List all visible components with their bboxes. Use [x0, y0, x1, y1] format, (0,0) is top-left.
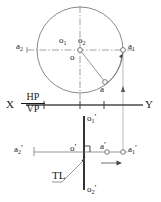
label-a: a: [100, 85, 104, 94]
label-vp: VP: [26, 104, 41, 115]
label-y-axis: Y: [145, 99, 153, 110]
label-a1-prime: a1′: [128, 145, 137, 154]
label-a1: a1: [128, 42, 135, 51]
radius-line-o-to-a: [80, 50, 105, 82]
label-o2: o2: [78, 36, 86, 45]
label-o1: o1: [59, 36, 67, 45]
label-o2-prime: o2′: [87, 185, 96, 194]
point-marker-a1-prime: [121, 150, 126, 155]
label-x-axis: X: [6, 99, 14, 110]
technical-drawing-canvas: a2 o1 o2 o a1 a X HP VP Y o1′ a2′ o′ a′ …: [0, 0, 161, 202]
point-marker-a1: [121, 48, 126, 53]
projector-arrow-head-icon: [121, 86, 125, 92]
label-hp: HP: [26, 92, 41, 103]
label-a2: a2: [16, 42, 23, 51]
label-o1-prime: o1′: [87, 114, 96, 123]
label-a-prime: a′: [100, 142, 106, 151]
movement-arrow-head-icon: [117, 161, 123, 166]
rotation-arc-a-to-a1: [106, 56, 122, 84]
label-o-prime: o′: [70, 144, 76, 153]
label-tl: TL: [52, 170, 65, 181]
label-o: o: [70, 53, 75, 62]
point-marker-o: [78, 48, 83, 53]
label-a2-prime: a2′: [14, 145, 23, 154]
label-hp-vp-fraction: HP VP: [21, 92, 45, 114]
